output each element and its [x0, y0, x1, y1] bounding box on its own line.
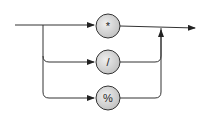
node-mul: * — [96, 14, 120, 38]
svg-text:*: * — [106, 20, 111, 32]
syntax-diagram: * / % — [0, 0, 203, 113]
node-div: / — [96, 50, 120, 74]
svg-text:%: % — [103, 92, 113, 104]
node-mod: % — [96, 86, 120, 110]
